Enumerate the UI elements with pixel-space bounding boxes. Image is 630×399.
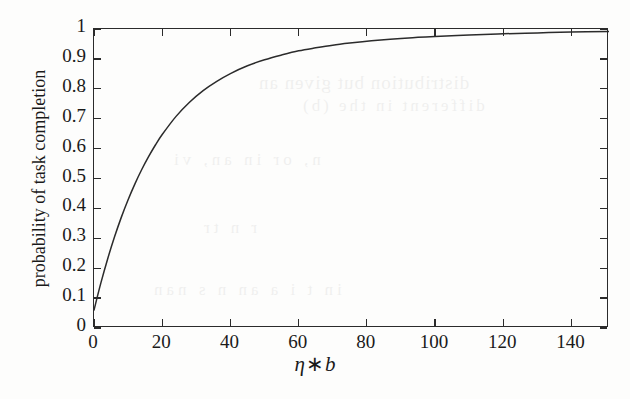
x-axis-title-b: b: [325, 352, 336, 376]
y-axis-tick-label: 0.7: [32, 105, 86, 127]
y-axis-tick-label: 0.1: [32, 284, 86, 306]
x-axis-tick: [366, 29, 367, 36]
y-axis-tick-label: 0.8: [32, 75, 86, 97]
x-axis-title-operator: ∗: [305, 352, 325, 376]
y-axis-tick: [600, 327, 607, 328]
y-axis-tick-label: 1: [32, 15, 86, 37]
x-axis-tick: [162, 29, 163, 36]
y-axis-tick: [94, 88, 101, 89]
x-axis-tick: [503, 319, 504, 326]
y-axis-tick: [94, 118, 101, 119]
y-axis-tick: [94, 327, 101, 328]
y-axis-tick: [600, 28, 607, 29]
y-axis-tick: [600, 58, 607, 59]
x-axis-tick: [366, 319, 367, 326]
y-axis-tick-label: 0.6: [32, 135, 86, 157]
y-axis-tick: [94, 238, 101, 239]
y-axis-tick: [94, 58, 101, 59]
x-axis-tick: [571, 319, 572, 326]
y-axis-tick: [94, 148, 101, 149]
y-axis-tick: [94, 208, 101, 209]
y-axis-tick: [600, 88, 607, 89]
x-axis-tick: [162, 319, 163, 326]
x-axis-tick: [503, 29, 504, 36]
x-axis-tick: [571, 29, 572, 36]
x-axis-tick: [298, 319, 299, 326]
plot-area: [93, 28, 608, 327]
y-axis-tick: [600, 297, 607, 298]
x-axis-tick: [93, 319, 94, 326]
x-axis-tick: [298, 29, 299, 36]
x-axis-tick: [434, 319, 435, 326]
y-axis-tick: [600, 238, 607, 239]
y-axis-tick: [600, 178, 607, 179]
y-axis-tick: [600, 118, 607, 119]
x-axis-tick-label: 140: [530, 331, 610, 353]
y-axis-tick: [94, 297, 101, 298]
x-axis-title: η∗b: [0, 352, 630, 377]
y-axis-tick: [600, 208, 607, 209]
x-axis-tick: [93, 29, 94, 36]
y-axis-tick: [600, 268, 607, 269]
y-axis-tick-label: 0.9: [32, 45, 86, 67]
y-axis-tick-label: 0.3: [32, 224, 86, 246]
series-line-probability: [94, 31, 609, 310]
y-axis-tick-label: 0.4: [32, 194, 86, 216]
x-axis-title-eta: η: [295, 352, 305, 376]
y-axis-tick: [94, 268, 101, 269]
y-axis-tick-label: 0: [32, 314, 86, 336]
figure-container: distribution but given an different in t…: [0, 0, 630, 399]
x-axis-tick: [230, 319, 231, 326]
data-curve-svg: [94, 29, 609, 328]
y-axis-tick: [94, 28, 101, 29]
y-axis-tick-label: 0.2: [32, 254, 86, 276]
y-axis-tick: [600, 148, 607, 149]
y-axis-tick: [94, 178, 101, 179]
y-axis-tick-label: 0.5: [32, 165, 86, 187]
x-axis-tick: [434, 29, 435, 36]
x-axis-tick: [230, 29, 231, 36]
